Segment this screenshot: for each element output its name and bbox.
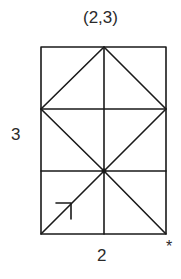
diagonal-to-bottom-right	[104, 171, 166, 234]
diagram-title: (2,3)	[83, 9, 118, 26]
grid-diagram	[0, 0, 181, 279]
center-point	[102, 169, 107, 174]
width-label: 2	[97, 247, 106, 264]
diagonal-to-bottom-left	[41, 171, 104, 234]
diagram-canvas: (2,3) 3 2 *	[0, 0, 181, 279]
corner-asterisk-mark: *	[166, 239, 172, 255]
height-label: 3	[11, 126, 20, 143]
